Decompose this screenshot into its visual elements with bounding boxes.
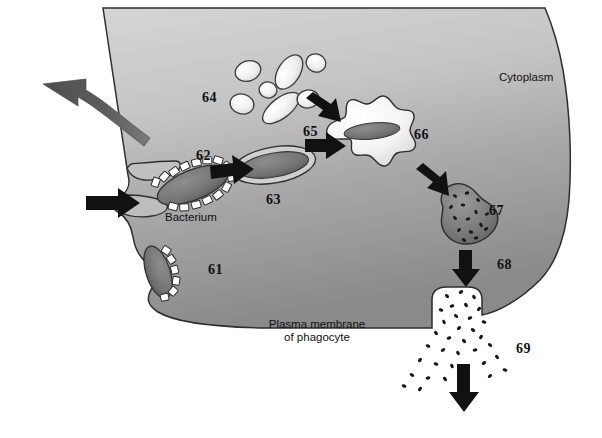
- number-label-61: 61: [208, 262, 223, 278]
- number-label-68: 68: [497, 257, 512, 273]
- number-label-66: 66: [414, 127, 429, 143]
- diagram-canvas: [0, 0, 602, 438]
- label-bacterium: Bacterium: [165, 211, 217, 224]
- plasma-membrane-line-2: of phagocyte: [284, 331, 350, 343]
- number-label-62: 62: [196, 148, 211, 164]
- label-cytoplasm: Cytoplasm: [499, 71, 553, 84]
- plasma-membrane-line-1: Plasma membrane: [269, 318, 366, 330]
- number-label-69: 69: [516, 341, 531, 357]
- phagocytosis-diagram: Cytoplasm Bacterium Plasma membrane of p…: [0, 0, 602, 438]
- number-label-64: 64: [202, 90, 217, 106]
- number-label-67: 67: [489, 203, 504, 219]
- debris-exit-arrow: [449, 364, 479, 412]
- number-label-65: 65: [303, 124, 318, 140]
- label-plasma-membrane: Plasma membrane of phagocyte: [252, 318, 382, 344]
- number-label-63: 63: [266, 192, 281, 208]
